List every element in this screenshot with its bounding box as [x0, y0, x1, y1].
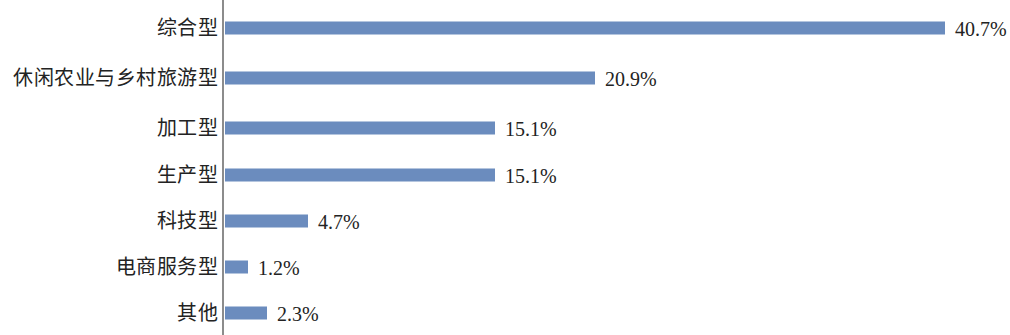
category-label: 科技型 [157, 211, 219, 231]
bar [225, 22, 945, 35]
bar-group: 15.1% [225, 169, 557, 182]
bar-value-label: 15.1% [505, 165, 557, 185]
chart-row: 加工型 15.1% [0, 106, 1010, 150]
category-label: 生产型 [157, 165, 219, 185]
bar [225, 261, 248, 274]
bar [225, 307, 267, 320]
category-label: 休闲农业与乡村旅游型 [13, 68, 218, 88]
bar [225, 215, 308, 228]
bar-chart: 综合型 40.7% 休闲农业与乡村旅游型 20.9% 加工型 15.1% 生产型… [0, 0, 1010, 335]
bar [225, 169, 495, 182]
bar-value-label: 1.2% [258, 257, 300, 277]
bar [225, 72, 595, 85]
bar-value-label: 40.7% [955, 18, 1007, 38]
chart-row: 休闲农业与乡村旅游型 20.9% [0, 56, 1010, 100]
chart-row: 综合型 40.7% [0, 6, 1010, 50]
bar-group: 40.7% [225, 22, 1007, 35]
category-label: 综合型 [157, 18, 219, 38]
bar-value-label: 20.9% [605, 68, 657, 88]
bar-value-label: 15.1% [505, 118, 557, 138]
chart-row: 其他 2.3% [0, 291, 1010, 335]
bar-group: 1.2% [225, 261, 300, 274]
category-label: 其他 [177, 303, 218, 323]
bar-group: 2.3% [225, 307, 319, 320]
category-label: 电商服务型 [116, 257, 219, 277]
chart-row: 生产型 15.1% [0, 153, 1010, 197]
chart-row: 科技型 4.7% [0, 199, 1010, 243]
bar-value-label: 4.7% [318, 211, 360, 231]
bar-group: 15.1% [225, 122, 557, 135]
bar-value-label: 2.3% [277, 303, 319, 323]
bar [225, 122, 495, 135]
chart-row: 电商服务型 1.2% [0, 245, 1010, 289]
bar-group: 20.9% [225, 72, 657, 85]
category-label: 加工型 [157, 118, 219, 138]
bar-group: 4.7% [225, 215, 360, 228]
